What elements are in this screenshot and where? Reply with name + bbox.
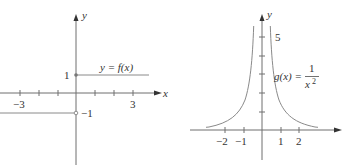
right-x-tick-label-2: 2 xyxy=(296,135,302,147)
right-x-tick-label-neg2: −2 xyxy=(216,135,228,147)
right-y-axis-arrow-icon xyxy=(260,14,265,21)
left-y-tick-label-1: 1 xyxy=(64,69,70,81)
left-function-label: y = f(x) xyxy=(99,61,133,74)
right-y-tick-label-5: 5 xyxy=(275,31,281,43)
left-x-axis-arrow-icon xyxy=(154,91,162,96)
right-function-label-exponent: 2 xyxy=(312,77,316,86)
right-graph: y −2 −1 1 2 5 g(x) = 1 x 2 xyxy=(190,8,342,160)
left-y-axis-label: y xyxy=(81,9,87,21)
closed-dot-icon xyxy=(74,73,78,77)
left-x-tick-label-3: 3 xyxy=(130,98,136,110)
right-x-axis-arrow-icon xyxy=(334,128,342,133)
right-x-tick-label-neg1: −1 xyxy=(235,135,247,147)
right-x-tick-label-1: 1 xyxy=(278,135,284,147)
right-curve-negative-branch xyxy=(206,26,254,127)
open-circle-icon xyxy=(74,111,78,115)
left-graph: x y −3 3 1 −1 y = f(x) xyxy=(0,9,168,165)
right-y-axis-label: y xyxy=(266,8,272,20)
right-function-label-numerator: 1 xyxy=(309,62,315,74)
left-y-tick-label-neg1: −1 xyxy=(81,107,93,119)
right-function-label-denominator: x xyxy=(304,78,310,90)
right-function-label-lhs: g(x) = xyxy=(274,70,302,83)
figure-canvas: x y −3 3 1 −1 y = f(x) y xyxy=(0,0,342,168)
left-y-axis-arrow-icon xyxy=(74,14,79,21)
left-x-tick-label-neg3: −3 xyxy=(13,98,25,110)
left-x-axis-label: x xyxy=(162,87,168,99)
